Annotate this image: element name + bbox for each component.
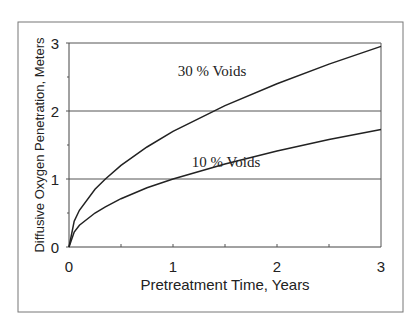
x-tick-label: 3: [377, 258, 385, 275]
annotation-10-voids: 10 % Voids: [192, 154, 261, 170]
x-tick-label: 2: [273, 258, 281, 275]
y-tick-label: 3: [51, 35, 59, 52]
y-tick-label: 1: [51, 171, 59, 188]
series-10-voids-line: [69, 129, 381, 247]
y-tick-label: 2: [51, 103, 59, 120]
y-axis-label: Diffusive Oxygen Penetration, Meters: [32, 37, 47, 253]
chart: 30 % Voids 10 % Voids 3 2 1 0 0 1 2 3 Pr…: [0, 0, 418, 332]
x-tick-label: 1: [169, 258, 177, 275]
annotation-30-voids: 30 % Voids: [178, 63, 247, 79]
x-tick-label: 0: [65, 258, 73, 275]
y-tick-label: 0: [51, 239, 59, 256]
x-axis-label: Pretreatment Time, Years: [140, 276, 309, 293]
